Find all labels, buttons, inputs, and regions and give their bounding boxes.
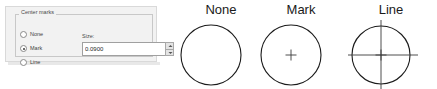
center-marks-settings-panel: Center marks None Mark Line Size: — [5, 6, 157, 62]
chevron-up-icon — [167, 44, 174, 48]
center-mark-cross — [286, 50, 297, 61]
radio-option-mark[interactable]: Mark — [20, 45, 42, 52]
diagram-none: None — [178, 0, 264, 89]
radio-label-none: None — [30, 31, 43, 38]
diagram-title-mark: Mark — [258, 1, 344, 18]
diagram-title-none: None — [178, 1, 264, 18]
spin-down-button[interactable] — [165, 50, 174, 57]
chevron-down-icon — [167, 51, 174, 55]
center-mark-cross — [376, 50, 387, 61]
radio-label-line: Line — [30, 59, 40, 66]
radio-indicator-none[interactable] — [20, 31, 27, 38]
figure-circle-no-center-mark — [178, 20, 264, 89]
figure-circle-with-center-lines — [348, 20, 434, 89]
size-stepper[interactable] — [82, 42, 129, 56]
diagram-line: Line — [348, 0, 434, 89]
radio-option-line[interactable]: Line — [20, 59, 40, 66]
radio-label-mark: Mark — [30, 45, 42, 52]
radio-indicator-mark[interactable] — [20, 45, 27, 52]
diagram-mark: Mark — [258, 0, 344, 89]
spin-up-button[interactable] — [165, 42, 174, 50]
size-spin-buttons[interactable] — [165, 42, 174, 56]
diagram-title-line: Line — [348, 1, 434, 18]
size-field-label: Size: — [82, 33, 94, 40]
size-input[interactable] — [82, 42, 165, 56]
radio-option-none[interactable]: None — [20, 31, 43, 38]
center-marks-group-label: Center marks — [19, 9, 56, 16]
radio-indicator-line[interactable] — [20, 59, 27, 66]
figure-circle-with-center-mark — [258, 20, 344, 89]
